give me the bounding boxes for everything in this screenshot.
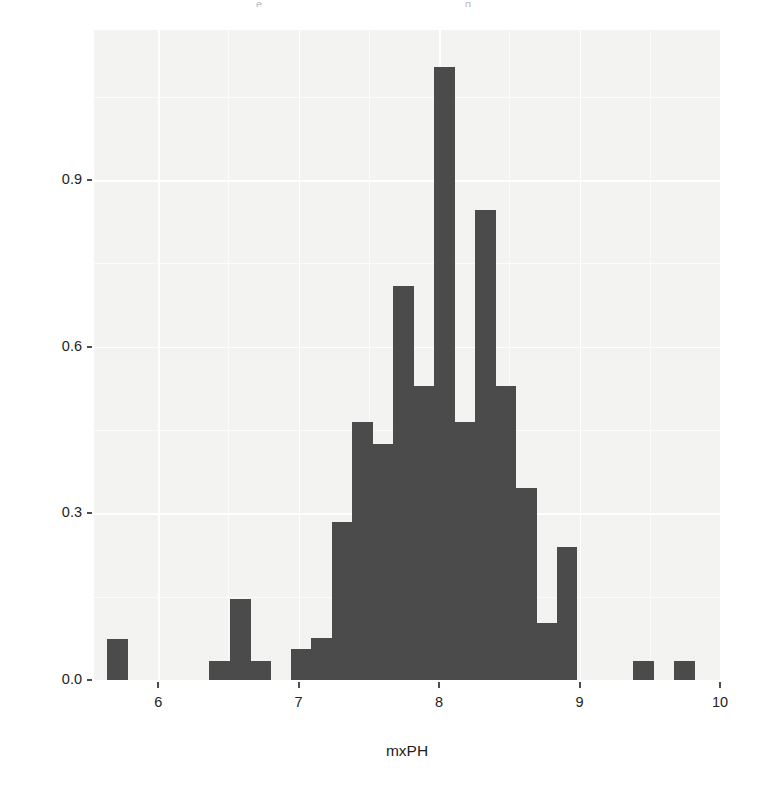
plot-panel xyxy=(94,30,720,680)
x-axis-tick xyxy=(719,682,721,688)
histogram-bar xyxy=(250,661,271,680)
y-axis-tick-label: 0.0 xyxy=(34,671,82,687)
x-axis-tick xyxy=(298,682,300,688)
histogram-bar xyxy=(352,422,373,680)
y-axis-tick-label: 0.9 xyxy=(34,171,82,187)
histogram-figure: e g density 0.00.30.60.9 678910 mxPH xyxy=(0,0,762,788)
y-axis-tick xyxy=(87,179,92,181)
histogram-bar xyxy=(495,386,516,680)
histogram-bar xyxy=(454,422,475,680)
x-axis-title: mxPH xyxy=(94,742,720,760)
histogram-bar xyxy=(536,623,557,680)
histogram-bar xyxy=(557,547,578,680)
x-axis-tick-label: 7 xyxy=(279,694,319,710)
scan-caption-fragment-1: e xyxy=(256,1,263,7)
x-axis-tick-label: 6 xyxy=(138,694,178,710)
y-axis-tick-label: 0.6 xyxy=(34,338,82,354)
histogram-bar xyxy=(107,639,128,680)
histogram-bar xyxy=(230,599,251,680)
x-axis-tick-label: 9 xyxy=(560,694,600,710)
histogram-bars xyxy=(94,30,720,680)
x-axis-tick xyxy=(438,682,440,688)
histogram-bar xyxy=(414,386,435,680)
histogram-bar xyxy=(434,67,455,680)
y-axis-tick xyxy=(87,679,92,681)
histogram-bar xyxy=(311,638,332,680)
histogram-bar xyxy=(516,488,537,680)
histogram-bar xyxy=(209,661,230,680)
histogram-bar xyxy=(332,522,353,680)
y-axis-tick-label: 0.3 xyxy=(34,504,82,520)
y-axis-tick xyxy=(87,512,92,514)
x-axis-tick xyxy=(157,682,159,688)
x-axis-tick xyxy=(579,682,581,688)
histogram-bar xyxy=(475,210,496,680)
y-axis-tick xyxy=(87,346,92,348)
histogram-bar xyxy=(674,661,695,680)
y-axis-title-wrapper: density xyxy=(10,180,34,680)
gridline-y-major xyxy=(94,680,720,682)
y-axis-title: density xyxy=(16,0,34,216)
scan-caption-fragment-2: g xyxy=(465,1,472,7)
histogram-bar xyxy=(393,286,414,681)
x-axis-tick-label: 8 xyxy=(419,694,459,710)
histogram-bar xyxy=(633,661,654,680)
histogram-bar xyxy=(373,444,394,680)
histogram-bar xyxy=(291,649,312,680)
x-axis-tick-label: 10 xyxy=(700,694,740,710)
gridline-x-major xyxy=(720,30,722,680)
